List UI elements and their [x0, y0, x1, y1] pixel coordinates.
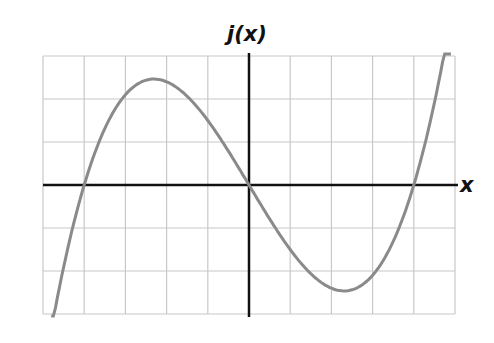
- chart-title: j(x): [227, 22, 267, 46]
- x-axis-label: x: [460, 173, 474, 197]
- function-graph: [0, 0, 494, 343]
